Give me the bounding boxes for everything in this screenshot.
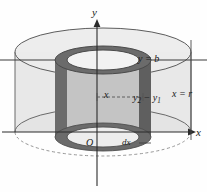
- label-shell-height: y2 − y1: [133, 93, 161, 105]
- shell-bottom-ring: [55, 123, 151, 151]
- y-axis-arrowhead: [94, 19, 101, 27]
- y-axis-label: y: [92, 7, 97, 18]
- cylindrical-shell-figure: y x y = b x = r y2 − y1 x O dx: [0, 0, 207, 192]
- label-y-equals-b: y = b: [138, 54, 159, 64]
- x-axis-label: x: [196, 127, 201, 138]
- label-origin: O: [86, 138, 93, 148]
- label-shell-radius: x: [104, 90, 108, 100]
- shell-wall-left: [55, 60, 67, 137]
- label-dx: dx: [122, 138, 131, 147]
- label-x-equals-r: x = r: [172, 89, 192, 99]
- shell-top-ring: [55, 46, 151, 74]
- shell-height-y1-sub: 1: [157, 97, 161, 105]
- shell-top-inner-ellipse: [67, 50, 139, 70]
- shell-height-minus: −: [141, 92, 153, 103]
- x-axis-arrowhead: [188, 129, 196, 136]
